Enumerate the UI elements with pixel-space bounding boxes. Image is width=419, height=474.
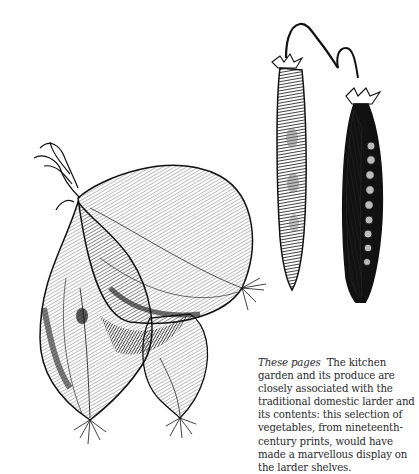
- caption-lead: These pages: [258, 357, 321, 368]
- onions-illustration: [20, 138, 270, 448]
- pea-pods-illustration: [258, 18, 388, 303]
- figure-caption: These pages The kitchen garden and its p…: [258, 356, 418, 474]
- caption-body: The kitchen garden and its produce are c…: [258, 357, 415, 473]
